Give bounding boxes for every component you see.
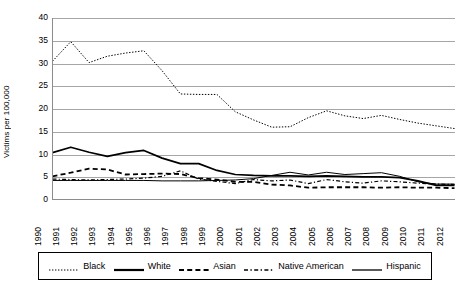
legend-item-white[interactable]: White [114, 261, 171, 271]
y-axis-title: Victims per 100,000 [2, 62, 18, 182]
legend-label: White [148, 261, 171, 271]
y-tick-label: 5 [24, 172, 48, 181]
legend-label: Native American [278, 261, 344, 271]
y-tick-label: 0 [24, 195, 48, 204]
y-tick-label: 35 [24, 36, 48, 45]
x-tick-label: 2012 [435, 206, 470, 246]
legend-line-swatch-icon [49, 261, 79, 271]
series-line-black [53, 42, 455, 129]
legend-line-swatch-icon [114, 261, 144, 271]
y-tick-label: 25 [24, 81, 48, 90]
legend-item-hispanic[interactable]: Hispanic [352, 261, 421, 271]
y-tick-label: 15 [24, 127, 48, 136]
x-axis-tick-labels: 1990199119921993199419951996199719981999… [52, 202, 455, 246]
legend-label: Black [83, 261, 105, 271]
chart-legend: BlackWhiteAsianNative AmericanHispanic [38, 252, 432, 280]
legend-label: Asian [213, 261, 236, 271]
legend-item-native-american[interactable]: Native American [244, 261, 344, 271]
y-axis-tick-labels: 0510152025303540 [20, 0, 48, 293]
legend-line-swatch-icon [244, 261, 274, 271]
y-tick-label: 10 [24, 150, 48, 159]
plot-svg [52, 18, 455, 200]
line-chart: Victims per 100,000 0510152025303540 199… [0, 0, 470, 293]
legend-line-swatch-icon [179, 261, 209, 271]
plot-area [52, 18, 455, 200]
legend-item-black[interactable]: Black [49, 261, 105, 271]
legend-label: Hispanic [386, 261, 421, 271]
y-tick-label: 40 [24, 13, 48, 22]
y-tick-label: 20 [24, 104, 48, 113]
legend-item-asian[interactable]: Asian [179, 261, 236, 271]
y-tick-label: 30 [24, 59, 48, 68]
legend-line-swatch-icon [352, 261, 382, 271]
